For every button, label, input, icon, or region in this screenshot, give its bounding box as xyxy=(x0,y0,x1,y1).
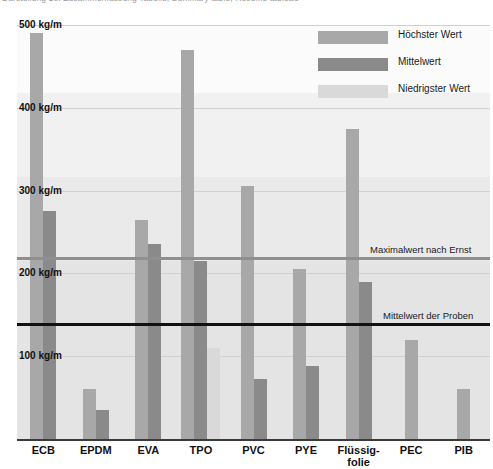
bar-epdm-mean xyxy=(96,410,109,439)
legend-label-highest: Höchster Wert xyxy=(398,29,462,40)
gridline xyxy=(17,273,490,274)
x-axis-tick-label-ecb: ECB xyxy=(17,444,70,456)
x-axis-tick-label-line: TPO xyxy=(175,444,228,456)
bar-eva-highest xyxy=(135,220,148,439)
x-axis-tick-label-line: PEC xyxy=(385,444,438,456)
y-axis-tick-label: 500 kg/m xyxy=(19,19,62,30)
y-axis-tick-label: 400 kg/m xyxy=(19,102,62,113)
x-axis-tick-label-pec: PEC xyxy=(385,444,438,456)
legend-item: Niedrigster Wert xyxy=(318,82,493,109)
x-axis-tick-label-line: ECB xyxy=(17,444,70,456)
x-axis-tick-label-pye: PYE xyxy=(280,444,333,456)
bar-pye-mean xyxy=(306,366,319,439)
bar-flüssigfolie-highest xyxy=(346,129,359,440)
legend-item: Mittelwert xyxy=(318,55,493,82)
x-axis-tick-label-line: EPDM xyxy=(70,444,123,456)
y-axis-tick-label: 200 kg/m xyxy=(19,267,62,278)
bar-flüssigfolie-mean xyxy=(359,282,372,439)
chart-page: Darstellung 10: Zusammenfassung Tabelle;… xyxy=(0,0,493,469)
legend-swatch-lowest-icon xyxy=(318,85,388,98)
reference-line-label-mean-samples: Mittelwert der Proben xyxy=(383,310,473,321)
x-axis-tick-label-line: PIB xyxy=(437,444,490,456)
chart-frame: 500 kg/m400 kg/m300 kg/m200 kg/m100 kg/m… xyxy=(0,14,493,469)
legend-item: Höchster Wert xyxy=(318,28,493,55)
y-axis-tick-label: 300 kg/m xyxy=(19,185,62,196)
legend-label-lowest: Niedrigster Wert xyxy=(398,83,470,94)
x-axis-tick-label-line: PYE xyxy=(280,444,333,456)
reference-line-max-ernst xyxy=(17,257,490,260)
x-axis-tick-label-pvc: PVC xyxy=(227,444,280,456)
x-axis-tick-label-line: PVC xyxy=(227,444,280,456)
x-axis-tick-label-tpo: TPO xyxy=(175,444,228,456)
reference-line-mean-samples xyxy=(17,323,490,326)
x-axis-tick-label-line: EVA xyxy=(122,444,175,456)
bar-pec-highest xyxy=(405,340,418,439)
x-axis-tick-label-flüssigfolie: Flüssig-folie xyxy=(332,444,385,468)
x-axis-tick-label-line: folie xyxy=(332,456,385,468)
figure-caption-strip: Darstellung 10: Zusammenfassung Tabelle;… xyxy=(0,0,493,11)
gridline xyxy=(17,25,490,26)
figure-caption: Darstellung 10: Zusammenfassung Tabelle;… xyxy=(2,0,298,3)
bar-pvc-highest xyxy=(241,186,254,439)
bar-pib-highest xyxy=(457,389,470,439)
legend-label-mean: Mittelwert xyxy=(398,56,441,67)
bar-ecb-highest xyxy=(30,33,43,439)
x-axis-tick-label-eva: EVA xyxy=(122,444,175,456)
x-axis-line xyxy=(17,439,490,441)
bar-tpo-mean xyxy=(194,261,207,439)
x-axis-tick-label-pib: PIB xyxy=(437,444,490,456)
y-axis-tick-label: 100 kg/m xyxy=(19,350,62,361)
bar-eva-mean xyxy=(148,244,161,439)
legend: Höchster Wert Mittelwert Niedrigster Wer… xyxy=(318,28,493,109)
legend-swatch-highest-icon xyxy=(318,31,388,44)
reference-line-label-max-ernst: Maximalwert nach Ernst xyxy=(370,244,471,255)
bar-epdm-highest xyxy=(83,389,96,439)
bar-tpo-lowest xyxy=(207,348,220,439)
x-axis-tick-label-epdm: EPDM xyxy=(70,444,123,456)
bar-pvc-mean xyxy=(254,379,267,439)
bar-pye-highest xyxy=(293,269,306,439)
gridline xyxy=(17,356,490,357)
gridline xyxy=(17,191,490,192)
legend-swatch-mean-icon xyxy=(318,58,388,71)
x-axis-tick-label-line: Flüssig- xyxy=(332,444,385,456)
bar-tpo-highest xyxy=(181,50,194,439)
